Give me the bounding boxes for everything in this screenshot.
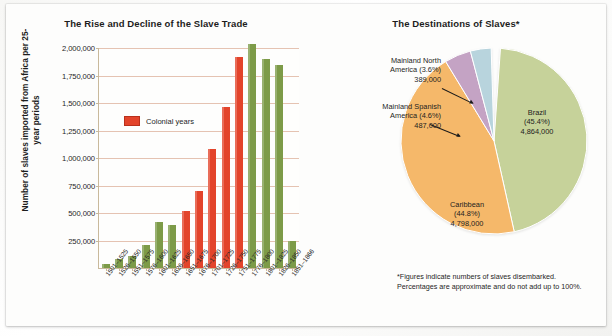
bar [235, 57, 243, 268]
bar-chart-plot-area: 250,000500,000750,0001,000,0001,250,0001… [98, 48, 299, 269]
y-tick-label: 2,000,000 [62, 44, 95, 53]
footnote-line-2: Percentages are approximate and do not a… [397, 282, 603, 292]
y-tick-label: 1,000,000 [62, 154, 95, 163]
y-tick-label: 1,500,000 [62, 99, 95, 108]
y-tick-label: 250,000 [68, 236, 95, 245]
bar-chart-panel: The Rise and Decline of the Slave Trade … [6, 4, 311, 326]
y-tick-label: 1,750,000 [62, 71, 95, 80]
pie-chart-footnote: *Figures indicate numbers of slaves dise… [397, 272, 603, 292]
bar-chart-y-axis-label: Number of slaves imported from Africa pe… [20, 25, 42, 215]
pie-callout-mainland-north-america: Mainland North America (3.6%) 389,000 [329, 56, 441, 84]
pie-slice-label-brazil: Brazil (45.4%) 4,864,000 [499, 108, 575, 136]
bar [275, 65, 283, 269]
bar-chart-title: The Rise and Decline of the Slave Trade [6, 18, 306, 29]
pie-chart-panel: The Destinations of Slaves* Mainland Nor… [311, 4, 606, 326]
bar [248, 44, 256, 268]
pie-chart-title: The Destinations of Slaves* [311, 18, 601, 29]
pie-callout-mainland-spanish-america: Mainland Spanish America (4.6%) 487,000 [313, 102, 441, 130]
bar [262, 59, 270, 268]
footnote-line-1: *Figures indicate numbers of slaves dise… [397, 272, 603, 282]
scanned-page: The Rise and Decline of the Slave Trade … [0, 0, 612, 336]
y-tick-label: 1,250,000 [62, 126, 95, 135]
figure-container: The Rise and Decline of the Slave Trade … [6, 4, 606, 326]
legend-label-colonial-years: Colonial years [146, 117, 194, 126]
bar-chart-legend: Colonial years [124, 116, 194, 126]
pie-slice-label-caribbean: Caribbean (44.8%) 4,798,000 [429, 200, 505, 228]
bar [222, 107, 230, 268]
y-tick-label: 500,000 [68, 209, 95, 218]
legend-swatch-colonial-years [124, 116, 140, 126]
bar-chart-bars [99, 48, 299, 268]
y-tick-label: 750,000 [68, 181, 95, 190]
